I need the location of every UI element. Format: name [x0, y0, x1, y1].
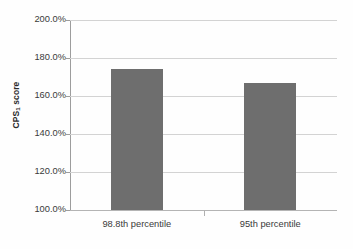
plot-area — [70, 20, 337, 210]
bar — [244, 83, 296, 210]
bar-chart: CPS1 score 200.0%180.0%160.0%140.0%120.0… — [0, 0, 353, 249]
y-axis-tickmark — [65, 210, 70, 211]
y-axis-tick-labels: 200.0%180.0%160.0%140.0%120.0%100.0% — [0, 0, 66, 249]
gridline — [70, 20, 337, 21]
y-axis-tick-label: 160.0% — [4, 91, 66, 100]
y-axis-tick-label: 140.0% — [4, 129, 66, 138]
gridline — [70, 58, 337, 59]
bar — [111, 69, 163, 210]
y-axis-tick-label: 180.0% — [4, 53, 66, 62]
y-axis-tickmark — [65, 20, 70, 21]
y-axis-tick-label: 200.0% — [4, 15, 66, 24]
x-axis-tickmark — [204, 211, 205, 216]
y-axis-tickmark — [65, 134, 70, 135]
y-axis-tickmark — [65, 58, 70, 59]
y-axis-tickmark — [65, 96, 70, 97]
x-axis-tick-label: 98.8th percentile — [70, 219, 204, 229]
y-axis-tick-label: 120.0% — [4, 167, 66, 176]
y-axis-tickmark — [65, 172, 70, 173]
y-axis-tick-label: 100.0% — [4, 205, 66, 214]
x-axis-tick-label: 95th percentile — [204, 219, 338, 229]
